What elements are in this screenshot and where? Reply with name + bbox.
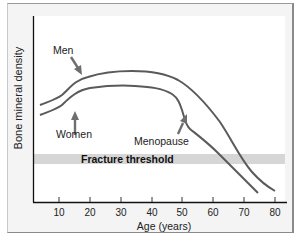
x-tick-labels: 10 20 30 40 50 60 70 80 [53, 207, 281, 218]
tick-label: 50 [176, 207, 188, 218]
tick-label: 70 [238, 207, 250, 218]
men-label: Men [53, 44, 74, 56]
bone-density-chart: Fracture threshold 10 20 30 40 50 60 70 … [0, 0, 304, 245]
menopause-label: Menopause [134, 135, 189, 147]
tick-label: 40 [146, 207, 158, 218]
tick-label: 30 [115, 207, 127, 218]
tick-label: 80 [269, 207, 281, 218]
fracture-threshold-label: Fracture threshold [81, 153, 174, 165]
y-axis-label: Bone mineral density [12, 18, 24, 178]
tick-label: 20 [84, 207, 96, 218]
x-axis-label: Age (years) [137, 220, 191, 232]
tick-label: 10 [53, 207, 65, 218]
women-label: Women [56, 128, 92, 140]
tick-label: 60 [207, 207, 219, 218]
